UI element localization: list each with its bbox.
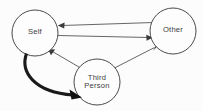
- node-circle-self: [12, 10, 58, 56]
- node-circle-other: [150, 8, 196, 54]
- node-circle-third-person: [74, 59, 120, 105]
- edge-self-to-other-line: [58, 36, 149, 38]
- arrowhead-at-self-from-other: [58, 23, 65, 29]
- edge-self-to-third-person: [25, 54, 82, 100]
- edge-third-person-to-self: [48, 49, 82, 69]
- edge-self-to-other: [58, 35, 154, 41]
- edge-third-person-to-other: [113, 46, 159, 69]
- edge-other-to-self-line: [62, 23, 154, 26]
- diagram-canvas: [0, 0, 202, 111]
- edge-third-person-to-self-line: [52, 51, 82, 69]
- relational-diagram: Self Other Third Person: [0, 0, 202, 111]
- edge-other-to-self: [58, 23, 154, 29]
- edge-third-person-to-other-line: [113, 48, 155, 70]
